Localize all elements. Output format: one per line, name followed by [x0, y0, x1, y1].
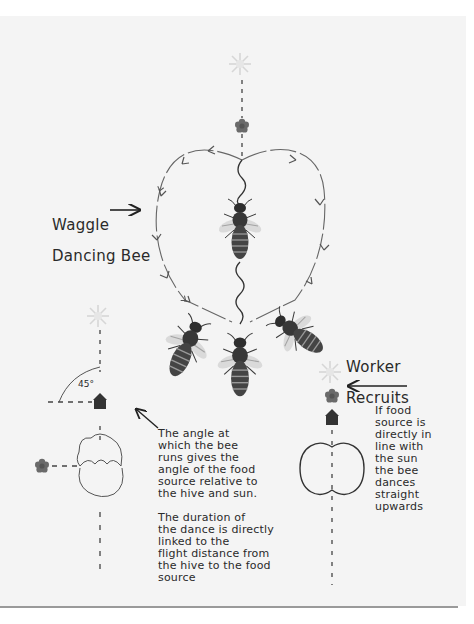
waggle-label-line2: Dancing Bee	[52, 247, 151, 265]
angle-label: 45°	[78, 380, 94, 389]
waggle-label-line1: Waggle	[52, 216, 109, 234]
right-hive-icon	[325, 409, 339, 425]
waggle-dancing-bee-label: Waggle Dancing Bee	[52, 202, 151, 265]
duration-note: The duration of the dance is directly li…	[158, 512, 274, 584]
recruit-bee-center	[216, 333, 264, 396]
worker-recruits-label: Worker Recruits	[346, 344, 409, 407]
recruit-bee-right	[260, 297, 336, 369]
left-return-loop	[156, 150, 242, 322]
top-sun-icon	[229, 53, 251, 75]
worker-label-line1: Worker	[346, 358, 401, 376]
straight-upwards-note: If food source is directly in line with …	[375, 405, 432, 513]
right-flower-icon	[325, 389, 339, 403]
waggle-dancing-bee	[217, 199, 263, 259]
left-hive-icon	[93, 393, 107, 409]
top-flower-icon	[235, 119, 249, 133]
left-flower-icon	[35, 459, 49, 473]
left-sun-icon	[87, 305, 109, 327]
angle-note: The angle at which the bee runs gives th…	[158, 428, 258, 500]
right-return-loop	[242, 150, 325, 322]
recruit-bee-left	[151, 308, 222, 386]
right-sun-icon	[319, 361, 341, 383]
